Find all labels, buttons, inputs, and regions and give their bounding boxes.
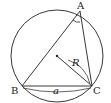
label-c: C bbox=[93, 85, 101, 96]
label-a: A bbox=[76, 0, 85, 11]
triangle-circle-diagram: A B C R a bbox=[0, 0, 111, 103]
label-radius: R bbox=[71, 57, 80, 68]
label-side: a bbox=[53, 85, 59, 96]
label-b: B bbox=[11, 85, 18, 96]
triangle-abc bbox=[22, 11, 92, 86]
angle-a-marker bbox=[73, 20, 80, 22]
